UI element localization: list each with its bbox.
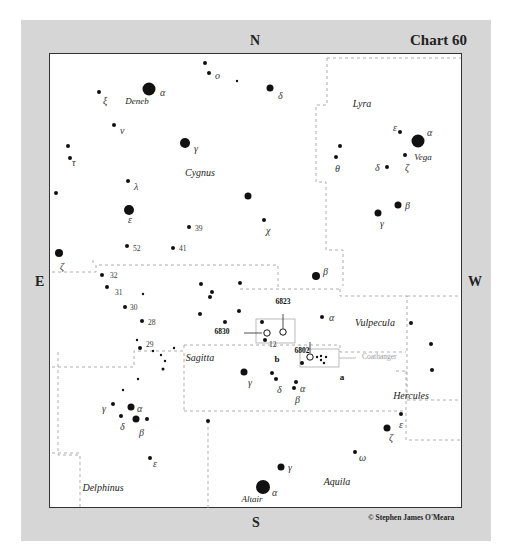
star-label: 41 xyxy=(179,244,187,253)
star xyxy=(323,362,325,364)
star xyxy=(160,354,162,356)
star-label: α xyxy=(329,312,335,323)
star-label: β xyxy=(404,200,410,211)
star xyxy=(173,347,175,349)
named-star-label: Altair xyxy=(240,494,262,504)
star xyxy=(256,480,270,494)
star xyxy=(294,380,298,384)
star xyxy=(409,321,413,325)
star xyxy=(384,425,391,432)
cluster-marker xyxy=(264,330,270,336)
star xyxy=(137,378,139,380)
star xyxy=(262,218,266,222)
star xyxy=(126,179,130,183)
star xyxy=(164,360,166,362)
star xyxy=(223,320,227,324)
star xyxy=(320,359,322,361)
object-label: 6830 xyxy=(215,327,230,336)
star-label: ε xyxy=(393,122,397,133)
star xyxy=(133,416,140,423)
star xyxy=(375,210,382,217)
star-label: 29 xyxy=(146,340,154,349)
star xyxy=(112,123,116,127)
star xyxy=(125,244,129,248)
boundary-line xyxy=(406,371,461,440)
star xyxy=(245,193,252,200)
star xyxy=(143,83,156,96)
star xyxy=(278,464,285,471)
star xyxy=(312,272,320,280)
box-label: b xyxy=(274,354,279,364)
star xyxy=(429,342,433,346)
star xyxy=(398,130,402,134)
star xyxy=(54,191,58,195)
star xyxy=(171,246,175,250)
star xyxy=(142,293,144,295)
star xyxy=(199,282,203,286)
star xyxy=(148,456,152,460)
star-label: β xyxy=(138,427,144,438)
star xyxy=(316,356,318,358)
star xyxy=(198,312,202,316)
star xyxy=(395,202,402,209)
star xyxy=(138,346,142,350)
star xyxy=(267,85,274,92)
star-label: γ xyxy=(102,403,107,414)
star xyxy=(180,138,190,148)
star xyxy=(236,80,238,82)
star-label: τ xyxy=(72,157,76,168)
star xyxy=(122,389,124,391)
star xyxy=(162,368,165,371)
star xyxy=(412,135,425,148)
star xyxy=(320,315,324,319)
star xyxy=(403,153,407,157)
star xyxy=(140,319,144,323)
star-label: 39 xyxy=(195,224,203,233)
star xyxy=(241,369,248,376)
star-label: δ xyxy=(277,384,282,395)
star xyxy=(128,404,135,411)
star-label: δ xyxy=(375,162,380,173)
star-label: ε xyxy=(153,458,157,469)
star-label: 31 xyxy=(115,288,123,297)
star xyxy=(399,412,403,416)
star xyxy=(136,339,138,341)
star-label: 32 xyxy=(110,271,118,280)
constellation-label: Cygnus xyxy=(185,167,215,178)
star xyxy=(260,320,264,324)
object-label: 6802 xyxy=(295,346,310,355)
star xyxy=(320,355,322,357)
star xyxy=(208,295,212,299)
star-label: β xyxy=(322,266,328,277)
star xyxy=(325,356,327,358)
star-label: γ xyxy=(288,462,293,473)
star-label: θ xyxy=(335,163,340,174)
star-label: γ xyxy=(194,143,199,154)
star xyxy=(207,71,211,75)
boundary-line xyxy=(52,265,278,272)
star xyxy=(66,144,70,148)
star xyxy=(430,368,434,372)
star-label: χ xyxy=(265,225,271,236)
star xyxy=(119,414,123,418)
star-label: ξ xyxy=(103,95,108,107)
constellation-label: Delphinus xyxy=(81,482,123,493)
star xyxy=(385,165,389,169)
star-label: 52 xyxy=(133,244,141,253)
star-label: ζ xyxy=(405,162,410,174)
star xyxy=(334,155,338,159)
star-label: δ xyxy=(120,421,125,432)
star-label: β xyxy=(294,394,300,405)
star xyxy=(152,350,154,352)
boundary-line xyxy=(58,352,80,508)
star xyxy=(203,61,207,65)
star-label: ζ xyxy=(60,261,65,273)
star xyxy=(145,417,149,421)
named-star-label: Vega xyxy=(414,152,432,162)
star-label: λ xyxy=(133,181,139,192)
asterism-label: Coathanger xyxy=(362,352,397,361)
constellation-label: Lyra xyxy=(352,98,372,109)
star-label: ε xyxy=(128,214,132,225)
star-label: α xyxy=(137,403,143,414)
star-label: δ xyxy=(278,90,283,101)
